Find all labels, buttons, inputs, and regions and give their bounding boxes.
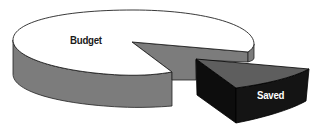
saved-label: Saved [257,89,284,101]
budget-label: Budget [70,34,102,46]
saved-slice [196,59,309,123]
pie-chart [0,0,324,131]
